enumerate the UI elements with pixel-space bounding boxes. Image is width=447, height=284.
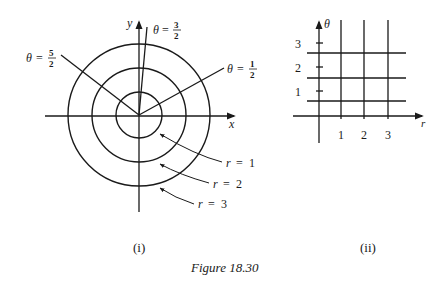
figure-caption: Figure 18.30 [191, 260, 258, 276]
svg-text:2: 2 [174, 31, 179, 41]
label-r3: r = 3 [198, 197, 227, 211]
panel-i-polar-plane: x y θ = 3 2 θ = 5 2 θ = 1 2 [26, 16, 257, 212]
r-tick-label-3: 3 [385, 128, 391, 142]
label-r1: r = 1 [226, 156, 255, 170]
y-axis-label: y [126, 16, 133, 30]
svg-text:2: 2 [250, 70, 255, 80]
svg-text:=: = [223, 177, 230, 191]
theta-tick-label-3: 3 [295, 37, 301, 51]
r-axis-label: r [421, 117, 426, 129]
svg-text:3: 3 [221, 197, 227, 211]
svg-text:1: 1 [249, 156, 255, 170]
ray-theta-three-halves [139, 27, 147, 115]
theta-axis-label: θ [324, 17, 330, 31]
svg-text:r: r [213, 177, 218, 191]
label-theta-five-halves: θ = 5 2 [26, 48, 56, 69]
svg-text:θ: θ [153, 23, 159, 37]
theta-tick-label-1: 1 [295, 85, 301, 99]
svg-text:=: = [208, 197, 215, 211]
svg-text:θ: θ [26, 51, 32, 65]
svg-text:r: r [198, 197, 203, 211]
label-theta-three-halves: θ = 3 2 [153, 20, 181, 41]
figure-canvas: x y θ = 3 2 θ = 5 2 θ = 1 2 [0, 0, 447, 284]
r-tick-label-1: 1 [338, 128, 344, 142]
leader-r1 [160, 134, 222, 162]
svg-text:5: 5 [49, 48, 54, 58]
svg-text:=: = [162, 23, 169, 37]
svg-text:=: = [36, 51, 43, 65]
svg-text:r: r [226, 156, 231, 170]
svg-text:=: = [237, 62, 244, 76]
theta-tick-label-2: 2 [295, 61, 301, 75]
svg-text:2: 2 [49, 59, 54, 69]
label-r2: r = 2 [213, 177, 242, 191]
ray-theta-half [139, 68, 224, 115]
leader-r3 [160, 188, 194, 204]
label-theta-half: θ = 1 2 [227, 59, 257, 80]
svg-text:θ: θ [227, 62, 233, 76]
svg-text:=: = [236, 156, 243, 170]
svg-text:2: 2 [236, 177, 242, 191]
panel-ii-caption: (ii) [360, 240, 376, 256]
r-tick-label-2: 2 [361, 128, 367, 142]
panel-ii-grid: θ r 3 2 1 1 2 3 [293, 17, 426, 143]
svg-text:1: 1 [250, 59, 255, 69]
panel-i-caption: (i) [133, 240, 145, 256]
x-axis-label: x [228, 117, 235, 131]
ray-theta-five-halves [61, 55, 139, 115]
svg-text:3: 3 [174, 20, 179, 30]
